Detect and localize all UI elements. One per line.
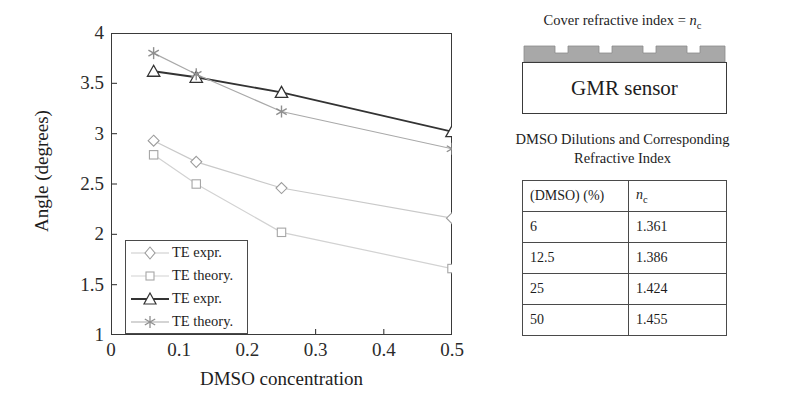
table-caption-line1: DMSO Dilutions and Corresponding xyxy=(516,131,730,147)
legend-label: TE expr. xyxy=(172,245,222,260)
legend-label: TE theory. xyxy=(172,268,233,283)
table-row: 251.424 xyxy=(523,274,727,305)
legend-item-te-theory-light: TE theory. xyxy=(126,264,247,287)
y-axis-title: Angle (degrees) xyxy=(31,41,53,301)
column-header-nc: nc xyxy=(629,181,727,212)
cell-nc: 1.361 xyxy=(629,212,727,243)
legend-label: TE theory. xyxy=(172,314,233,329)
cover-refractive-index-caption: Cover refractive index = nc xyxy=(460,12,785,31)
table-caption-line2: Refractive Index xyxy=(574,150,671,166)
column-header-dmso: (DMSO) (%) xyxy=(523,181,629,212)
caption-prefix: Cover refractive index = xyxy=(544,12,690,28)
y-axis-tick-label: 3 xyxy=(95,124,105,143)
y-axis-tick-label: 2.5 xyxy=(80,174,104,193)
y-axis-tick-label: 4 xyxy=(95,23,105,42)
square-icon xyxy=(129,266,171,286)
table-header-row: (DMSO) (%) nc xyxy=(523,181,727,212)
cell-dmso: 50 xyxy=(523,305,629,336)
figure-root: 11.522.533.54 00.10.20.30.40.5 DMSO conc… xyxy=(0,0,785,398)
cell-nc: 1.455 xyxy=(629,305,727,336)
y-axis-tick-label: 1.5 xyxy=(80,275,104,294)
table-row: 501.455 xyxy=(523,305,727,336)
cell-nc: 1.424 xyxy=(629,274,727,305)
table-caption: DMSO Dilutions and Corresponding Refract… xyxy=(460,130,785,168)
legend-item-te-theory-gray: TE theory. xyxy=(126,310,247,333)
sidebar-panel: Cover refractive index = nc GMR sensor D… xyxy=(460,0,785,398)
x-axis-title: DMSO concentration xyxy=(111,368,452,390)
refractive-index-table: (DMSO) (%) nc 61.36112.51.386251.424501.… xyxy=(522,180,727,336)
caption-symbol: n xyxy=(689,12,696,28)
asterisk-icon xyxy=(129,312,171,332)
x-axis-tick-label: 0 xyxy=(86,340,136,359)
x-axis-tick-label: 0.3 xyxy=(291,340,341,359)
legend-item-te-expr-dark: TE expr. xyxy=(126,287,247,310)
legend-item-te-expr-light: TE expr. xyxy=(126,241,247,264)
cell-dmso: 12.5 xyxy=(523,243,629,274)
table-body: 61.36112.51.386251.424501.455 xyxy=(523,212,727,336)
cell-dmso: 6 xyxy=(523,212,629,243)
y-axis-tick-label: 2 xyxy=(95,224,105,243)
cell-dmso: 25 xyxy=(523,274,629,305)
chart-legend: TE expr. TE theory. TE expr. xyxy=(125,240,248,334)
x-axis-tick-label: 0.1 xyxy=(154,340,204,359)
diamond-icon xyxy=(129,243,171,263)
cell-nc: 1.386 xyxy=(629,243,727,274)
y-axis-tick-label: 3.5 xyxy=(80,73,104,92)
x-axis-tick-label: 0.2 xyxy=(222,340,272,359)
legend-label: TE expr. xyxy=(172,291,222,306)
triangle-icon xyxy=(129,289,171,309)
table-row: 61.361 xyxy=(523,212,727,243)
caption-subscript: c xyxy=(697,20,702,31)
gmr-sensor-box: GMR sensor xyxy=(522,62,727,114)
chart-panel: 11.522.533.54 00.10.20.30.40.5 DMSO conc… xyxy=(0,0,460,398)
x-axis-tick-label: 0.4 xyxy=(359,340,409,359)
table-row: 12.51.386 xyxy=(523,243,727,274)
gmr-sensor-label: GMR sensor xyxy=(571,76,678,101)
